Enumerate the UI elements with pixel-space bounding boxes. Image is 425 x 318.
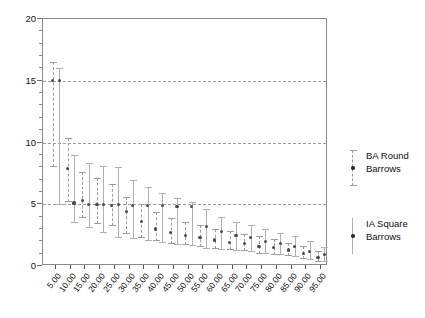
plot-area	[42, 18, 327, 265]
data-point	[279, 242, 282, 245]
x-tick-mark	[173, 265, 174, 269]
x-tick-mark	[84, 265, 85, 269]
x-tick-mark	[291, 265, 292, 269]
data-point	[205, 225, 208, 228]
legend-label-ba: BA Round Barrows	[366, 150, 425, 175]
data-point	[161, 204, 164, 207]
x-tick-mark	[246, 265, 247, 269]
legend-label-ba-line1: BA Round	[366, 150, 425, 163]
chart-legend: BA Round Barrows IA Square Barrows	[344, 148, 425, 268]
data-point	[308, 250, 311, 253]
data-point	[302, 252, 305, 255]
data-point	[228, 241, 231, 244]
y-tick-label: 15	[25, 74, 36, 85]
data-point	[117, 203, 120, 206]
data-point	[287, 248, 290, 251]
x-axis: 5.0010.0015.0020.0025.0030.0035.0040.004…	[42, 265, 327, 318]
legend-label-ia-line1: IA Square	[366, 218, 425, 231]
x-tick-mark	[202, 265, 203, 269]
x-tick-mark	[143, 265, 144, 269]
legend-item-ba-round-barrows[interactable]: BA Round Barrows	[344, 148, 425, 190]
data-point	[58, 79, 61, 82]
data-point	[249, 236, 252, 239]
x-tick-mark	[70, 265, 71, 269]
data-point	[175, 205, 178, 208]
data-point	[198, 236, 201, 239]
data-point	[102, 203, 105, 206]
data-point	[110, 204, 113, 207]
data-point	[316, 256, 319, 259]
x-tick-mark	[305, 265, 306, 269]
x-tick-mark	[158, 265, 159, 269]
x-tick-mark	[320, 265, 321, 269]
data-point	[72, 201, 75, 204]
data-point	[184, 234, 187, 237]
data-point	[140, 220, 143, 223]
chart-figure: 05101520 5.0010.0015.0020.0025.0030.0035…	[0, 0, 425, 318]
legend-label-ia-line2: Barrows	[366, 231, 425, 244]
legend-item-ia-square-barrows[interactable]: IA Square Barrows	[344, 216, 425, 258]
data-point	[190, 205, 193, 208]
data-point	[125, 210, 128, 213]
data-point	[169, 231, 172, 234]
data-point	[87, 203, 90, 206]
data-point	[154, 227, 157, 230]
legend-marker-dashed-errorbar-icon	[352, 150, 353, 186]
data-point	[243, 242, 246, 245]
data-point	[95, 203, 98, 206]
x-tick-mark	[261, 265, 262, 269]
y-tick-label: 5	[31, 198, 36, 209]
legend-label-ia: IA Square Barrows	[366, 218, 425, 243]
data-point	[213, 238, 216, 241]
data-point	[51, 79, 54, 82]
y-tick-label: 0	[31, 260, 36, 271]
legend-marker-solid-errorbar-icon	[352, 218, 353, 254]
y-tick-label: 20	[25, 13, 36, 24]
data-point	[66, 167, 69, 170]
data-point	[257, 245, 260, 248]
legend-label-ba-line2: Barrows	[366, 163, 425, 176]
data-point	[293, 245, 296, 248]
x-tick-mark	[99, 265, 100, 269]
data-point	[131, 204, 134, 207]
x-tick-mark	[232, 265, 233, 269]
gridline	[43, 143, 326, 144]
x-tick-mark	[188, 265, 189, 269]
data-point	[146, 204, 149, 207]
data-point	[220, 230, 223, 233]
gridline	[43, 81, 326, 82]
x-tick-mark	[55, 265, 56, 269]
y-axis: 05101520	[0, 18, 42, 265]
data-point	[234, 234, 237, 237]
x-tick-mark	[276, 265, 277, 269]
x-tick-mark	[114, 265, 115, 269]
gridline	[43, 204, 326, 205]
data-point	[272, 246, 275, 249]
x-tick-mark	[217, 265, 218, 269]
y-tick-label: 10	[25, 136, 36, 147]
data-point	[81, 199, 84, 202]
data-point	[264, 240, 267, 243]
x-tick-mark	[129, 265, 130, 269]
data-point	[323, 253, 326, 256]
